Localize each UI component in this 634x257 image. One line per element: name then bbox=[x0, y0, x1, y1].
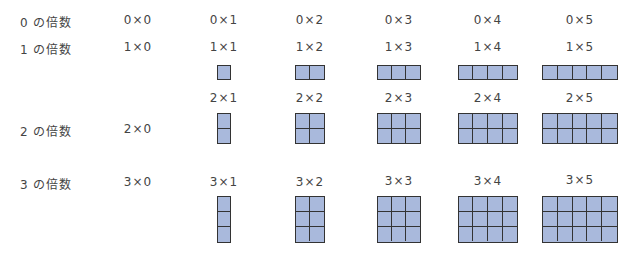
array-cell bbox=[602, 212, 617, 227]
array-cell bbox=[602, 227, 617, 242]
array-cell bbox=[543, 66, 558, 79]
array-cell bbox=[218, 114, 231, 129]
array-grid-1x4 bbox=[458, 65, 518, 80]
array-cell bbox=[587, 227, 602, 242]
array-cell bbox=[503, 197, 518, 212]
array-cell bbox=[543, 114, 558, 129]
array-cell bbox=[587, 66, 602, 79]
array-cell bbox=[558, 212, 573, 227]
array-cell bbox=[488, 212, 503, 227]
array-cell bbox=[218, 212, 231, 227]
array-cell bbox=[543, 197, 558, 212]
expr-0x4: 0×4 bbox=[474, 13, 502, 27]
array-cell bbox=[392, 212, 406, 227]
array-cell bbox=[503, 212, 518, 227]
array-cell bbox=[296, 114, 310, 129]
array-cell bbox=[392, 66, 406, 79]
row-label-0: 0 の倍数 bbox=[20, 13, 72, 30]
array-grid-3x5 bbox=[542, 196, 618, 243]
array-cell bbox=[218, 129, 231, 144]
array-cell bbox=[296, 227, 310, 242]
expr-3x3: 3×3 bbox=[385, 174, 413, 188]
array-cell bbox=[310, 129, 324, 144]
array-cell bbox=[573, 114, 588, 129]
array-cell bbox=[587, 212, 602, 227]
expr-2x4: 2×4 bbox=[474, 91, 502, 105]
array-grid-1x2 bbox=[295, 65, 324, 80]
row-label-1: 1 の倍数 bbox=[20, 40, 72, 57]
array-cell bbox=[558, 197, 573, 212]
array-cell bbox=[310, 212, 324, 227]
array-cell bbox=[378, 129, 392, 144]
array-cell bbox=[573, 197, 588, 212]
array-cell bbox=[378, 227, 392, 242]
array-cell bbox=[573, 66, 588, 79]
row-label-3: 3 の倍数 bbox=[20, 175, 72, 192]
array-grid-3x1 bbox=[217, 196, 232, 243]
array-cell bbox=[310, 114, 324, 129]
expr-2x5: 2×5 bbox=[566, 91, 594, 105]
array-cell bbox=[587, 197, 602, 212]
array-cell bbox=[602, 66, 617, 79]
array-grid-1x1 bbox=[217, 65, 232, 80]
expr-3x1: 3×1 bbox=[210, 175, 238, 189]
array-cell bbox=[503, 66, 518, 79]
array-cell bbox=[602, 129, 617, 144]
array-grid-3x3 bbox=[377, 196, 421, 243]
array-grid-1x3 bbox=[377, 65, 421, 80]
array-cell bbox=[488, 66, 503, 79]
array-cell bbox=[543, 227, 558, 242]
array-cell bbox=[406, 114, 420, 129]
array-cell bbox=[558, 66, 573, 79]
array-cell bbox=[488, 197, 503, 212]
expr-1x2: 1×2 bbox=[296, 40, 324, 54]
expr-0x3: 0×3 bbox=[385, 13, 413, 27]
expr-0x2: 0×2 bbox=[296, 13, 324, 27]
array-cell bbox=[602, 114, 617, 129]
expr-3x4: 3×4 bbox=[474, 174, 502, 188]
array-cell bbox=[543, 129, 558, 144]
array-grid-2x5 bbox=[542, 113, 618, 144]
array-cell bbox=[392, 227, 406, 242]
array-cell bbox=[459, 227, 474, 242]
array-cell bbox=[602, 197, 617, 212]
array-cell bbox=[218, 227, 231, 242]
expr-3x5: 3×5 bbox=[566, 173, 594, 187]
expr-3x0: 3×0 bbox=[124, 175, 152, 189]
array-cell bbox=[503, 129, 518, 144]
array-cell bbox=[378, 66, 392, 79]
array-cell bbox=[503, 114, 518, 129]
array-cell bbox=[473, 197, 488, 212]
array-cell bbox=[378, 197, 392, 212]
array-grid-1x5 bbox=[542, 65, 618, 80]
expr-3x2: 3×2 bbox=[296, 175, 324, 189]
array-grid-3x2 bbox=[295, 196, 324, 243]
expr-0x5: 0×5 bbox=[566, 13, 594, 27]
expr-1x3: 1×3 bbox=[385, 40, 413, 54]
array-grid-3x4 bbox=[458, 196, 518, 243]
array-cell bbox=[378, 114, 392, 129]
array-cell bbox=[543, 212, 558, 227]
array-cell bbox=[587, 114, 602, 129]
expr-1x1: 1×1 bbox=[210, 40, 238, 54]
array-cell bbox=[473, 114, 488, 129]
array-cell bbox=[587, 129, 602, 144]
array-cell bbox=[488, 129, 503, 144]
array-cell bbox=[296, 66, 310, 79]
array-cell bbox=[459, 114, 474, 129]
expr-1x4: 1×4 bbox=[474, 40, 502, 54]
array-cell bbox=[296, 197, 310, 212]
array-cell bbox=[459, 212, 474, 227]
array-cell bbox=[310, 227, 324, 242]
expr-1x5: 1×5 bbox=[566, 40, 594, 54]
array-cell bbox=[406, 66, 420, 79]
array-cell bbox=[459, 129, 474, 144]
array-grid-2x1 bbox=[217, 113, 232, 144]
array-cell bbox=[218, 66, 231, 79]
array-cell bbox=[296, 129, 310, 144]
row-label-2: 2 の倍数 bbox=[20, 122, 72, 139]
array-cell bbox=[392, 114, 406, 129]
array-cell bbox=[573, 227, 588, 242]
array-cell bbox=[459, 66, 474, 79]
array-cell bbox=[296, 212, 310, 227]
